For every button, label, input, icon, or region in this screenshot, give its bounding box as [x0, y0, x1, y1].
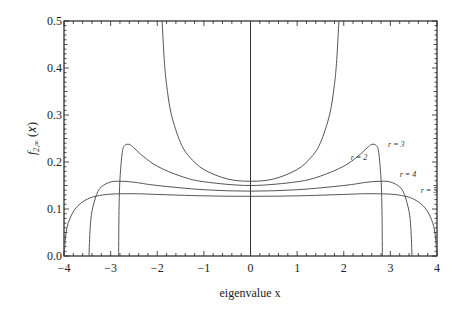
x-tick-label: 2	[341, 261, 347, 275]
y-tick-label: 0.5	[47, 14, 62, 28]
series-label: r = 4	[400, 170, 417, 179]
x-tick-label: 3	[387, 261, 393, 275]
x-tick-label: −2	[151, 261, 164, 275]
x-tick-label: 4	[434, 261, 440, 275]
eigenvalue-density-chart: −4−3−2−1012340.00.10.20.30.40.5 r = 2r =…	[0, 0, 457, 311]
series-label: r = 5	[421, 186, 438, 195]
y-axis-title-text: f2,∞ (𝑥)	[25, 122, 41, 155]
y-tick-label: 0.3	[47, 108, 62, 122]
x-tick-label: −3	[104, 261, 117, 275]
y-tick-label: 0.0	[47, 249, 62, 263]
y-axis-title: f2,∞ (𝑥)	[25, 122, 41, 155]
x-tick-label: 1	[294, 261, 300, 275]
axis-tick-labels: −4−3−2−1012340.00.10.20.30.40.5	[47, 14, 440, 275]
y-tick-label: 0.2	[47, 155, 62, 169]
series-label: r = 3	[388, 140, 405, 149]
density-curves	[64, 21, 437, 256]
y-tick-label: 0.4	[47, 61, 62, 75]
y-tick-label: 0.1	[47, 202, 62, 216]
series-label: r = 2	[351, 153, 368, 162]
x-tick-label: −4	[58, 261, 71, 275]
x-tick-label: −1	[197, 261, 210, 275]
series-labels: r = 2r = 3r = 4r = 5	[351, 140, 437, 196]
x-tick-label: 0	[248, 261, 254, 275]
x-axis-title: eigenvalue x	[220, 286, 281, 300]
